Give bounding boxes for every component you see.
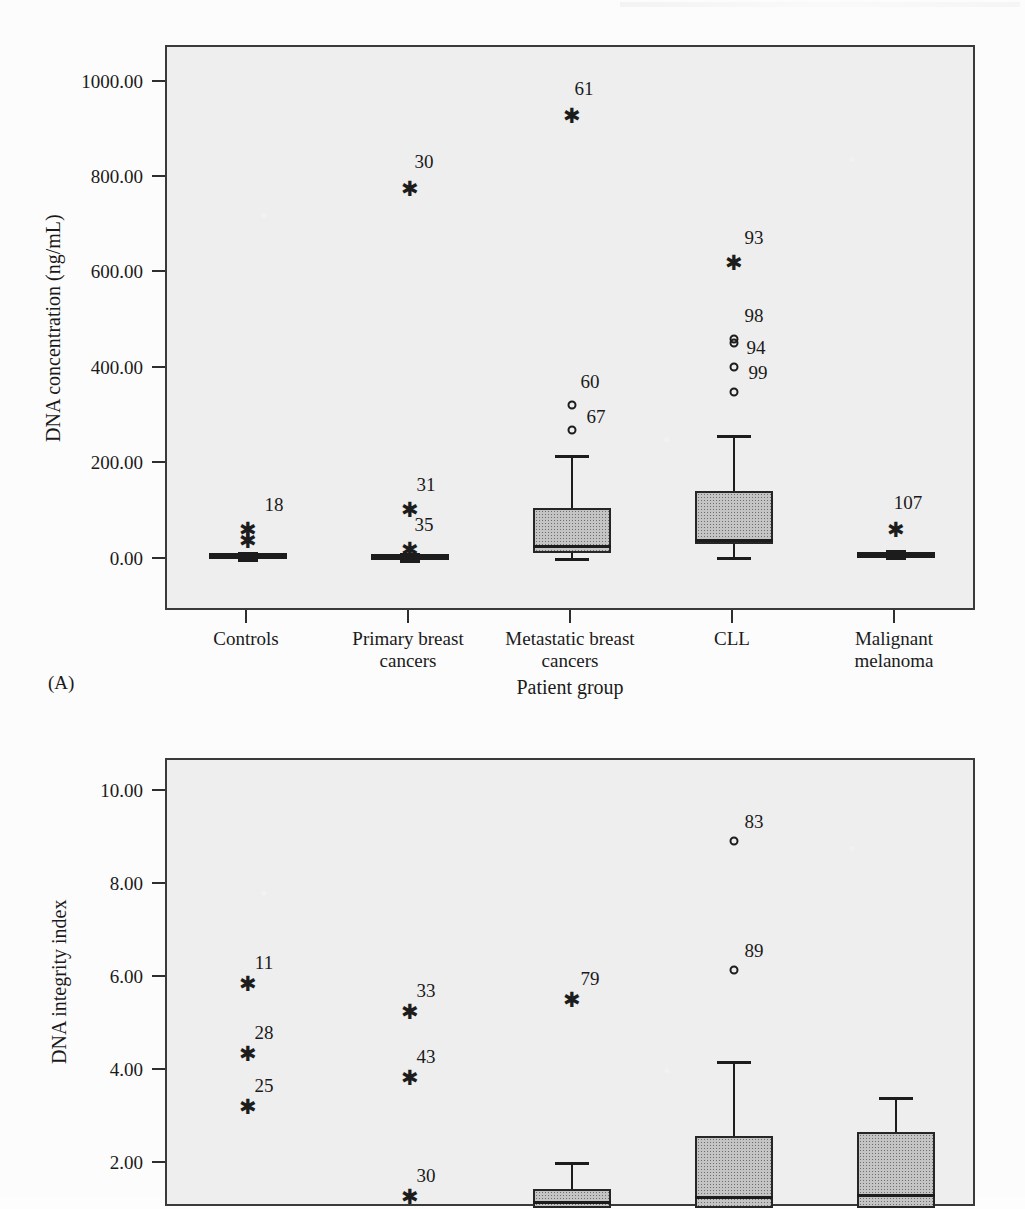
box-plot-whisker-upper	[895, 1097, 897, 1133]
box-plot-median	[857, 1194, 935, 1197]
y-tick-mark	[152, 789, 165, 791]
box-plot-box	[695, 491, 773, 544]
y-tick-mark	[152, 1161, 165, 1163]
outlier-marker-circle	[730, 837, 739, 846]
y-tick-label: 800.00	[91, 167, 143, 186]
y-tick-label: 1000.00	[81, 71, 143, 90]
outlier-label: 94	[747, 338, 766, 357]
box-plot-whisker-cap-upper	[717, 435, 751, 438]
outlier-label: 83	[745, 812, 764, 831]
y-tick-label: 400.00	[91, 357, 143, 376]
box-plot-whisker-upper	[571, 1162, 573, 1190]
outlier-marker-circle	[568, 425, 577, 434]
panel-label-a: (A)	[48, 672, 74, 694]
y-axis-label-a: DNA concentration (ng/mL)	[42, 214, 65, 442]
box-plot-whisker-upper	[733, 1061, 735, 1136]
outlier-label: 93	[745, 227, 764, 246]
outlier-label: 30	[415, 152, 434, 171]
box-plot-median	[695, 1196, 773, 1199]
y-tick-label: 0.00	[110, 548, 143, 567]
figure-b: DNA integrity index ✱11✱28✱25✱33✱43✱30✱7…	[0, 720, 1025, 1198]
outlier-label: 61	[575, 78, 594, 97]
x-axis-label-a: Patient group	[516, 676, 623, 699]
box-plot-median	[695, 539, 773, 542]
y-tick-mark	[152, 270, 165, 272]
x-tick-label-4: Malignant melanoma	[798, 628, 990, 672]
outlier-label: 67	[587, 406, 606, 425]
outlier-label: 60	[581, 372, 600, 391]
outlier-label: 18	[265, 494, 284, 513]
box-plot-whisker-upper	[733, 435, 735, 491]
outlier-label: 99	[749, 362, 768, 381]
outlier-label: 79	[581, 969, 600, 988]
plot-area-b: ✱11✱28✱25✱33✱43✱30✱798389	[165, 758, 975, 1206]
figure-a: DNA concentration (ng/mL) ✱18✱✱30✱31✱35✱…	[0, 0, 1025, 710]
y-tick-mark	[152, 366, 165, 368]
box-plot-whisker-cap-upper	[879, 1097, 913, 1100]
outlier-label: 25	[255, 1076, 274, 1095]
outlier-label: 30	[417, 1166, 436, 1185]
outlier-label: 28	[255, 1023, 274, 1042]
outlier-label: 98	[745, 306, 764, 325]
y-tick-label: 4.00	[110, 1060, 143, 1079]
y-tick-label: 10.00	[100, 781, 143, 800]
y-tick-mark	[152, 175, 165, 177]
outlier-label: 43	[417, 1046, 436, 1065]
outlier-marker-circle	[730, 387, 739, 396]
box-plot-median	[886, 550, 906, 560]
box-plot-median	[533, 1201, 611, 1204]
box-plot-median	[533, 545, 611, 548]
outlier-label: 89	[745, 940, 764, 959]
box-plot-whisker-cap-upper	[555, 1162, 589, 1165]
y-tick-label: 6.00	[110, 967, 143, 986]
outlier-marker-circle	[730, 965, 739, 974]
x-tick-mark	[407, 610, 409, 623]
box-plot-whisker-upper	[571, 455, 573, 508]
box-plot-whisker-lower	[733, 544, 735, 557]
x-tick-mark	[245, 610, 247, 623]
outlier-label: 33	[417, 980, 436, 999]
box-plot-whisker-cap-lower	[555, 558, 589, 561]
outlier-marker-circle	[730, 363, 739, 372]
y-tick-label: 200.00	[91, 453, 143, 472]
box-plot-whisker-cap-upper	[717, 1061, 751, 1064]
box-plot-whisker-cap-lower	[717, 557, 751, 560]
y-axis-label-b: DNA integrity index	[48, 900, 71, 1064]
y-tick-mark	[152, 882, 165, 884]
y-tick-mark	[152, 80, 165, 82]
y-tick-mark	[152, 1068, 165, 1070]
outlier-marker-circle	[730, 338, 739, 347]
y-tick-mark	[152, 975, 165, 977]
box-plot-box	[533, 1189, 611, 1208]
x-tick-mark	[893, 610, 895, 623]
outlier-label: 107	[894, 492, 923, 511]
y-tick-mark	[152, 461, 165, 463]
x-tick-mark	[569, 610, 571, 623]
outlier-label: 35	[415, 515, 434, 534]
plot-area-a: ✱18✱✱30✱31✱35✱616067✱93989499✱107	[165, 45, 975, 610]
outlier-marker-circle	[568, 401, 577, 410]
y-tick-mark	[152, 557, 165, 559]
box-plot-whisker-cap-upper	[555, 455, 589, 458]
outlier-label: 11	[255, 952, 273, 971]
outlier-label: 31	[417, 474, 436, 493]
x-tick-mark	[731, 610, 733, 623]
y-tick-label: 2.00	[110, 1152, 143, 1171]
y-tick-label: 600.00	[91, 262, 143, 281]
y-tick-label: 8.00	[110, 874, 143, 893]
